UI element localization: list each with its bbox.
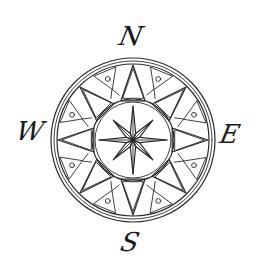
west-label: W	[14, 118, 46, 144]
compass-rose-figure: N W E S	[0, 0, 266, 278]
center-star-icon	[99, 106, 167, 174]
